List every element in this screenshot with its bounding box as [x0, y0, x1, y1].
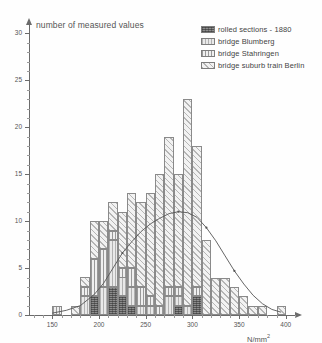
bar-segment-stahringen [192, 287, 201, 296]
bar-segment-berlin [80, 277, 89, 286]
bar-segment-berlin [183, 99, 192, 306]
histogram-bar [220, 278, 229, 316]
legend-item-rolled[interactable]: rolled sections - 1880 [201, 24, 321, 35]
histogram-bar [211, 278, 220, 316]
x-tick-major [99, 315, 100, 319]
x-tick-major [239, 315, 240, 319]
bar-segment-blumberg [108, 240, 117, 287]
x-tick-minor [118, 315, 119, 318]
bar-segment-rolled [118, 296, 127, 315]
y-tick-label: 20 [0, 123, 22, 130]
bar-segment-stahringen [164, 287, 173, 296]
x-tick-minor [90, 315, 91, 318]
histogram-bar [258, 306, 267, 315]
bar-segment-rolled [192, 296, 201, 315]
bar-segment-stahringen [108, 231, 117, 240]
histogram-bar [90, 221, 99, 315]
bar-segment-berlin [220, 278, 229, 316]
x-tick-minor [127, 315, 128, 318]
bar-segment-stahringen [90, 259, 99, 297]
bar-segment-berlin [108, 202, 117, 230]
bar-segment-stahringen [80, 287, 89, 296]
legend-item-stahringen[interactable]: bridge Stahringen [201, 48, 321, 59]
histogram-bar [146, 193, 155, 315]
x-tick-major [286, 315, 287, 319]
legend-item-label: bridge suburb train Berlin [218, 61, 304, 70]
x-tick-label: 150 [40, 321, 64, 328]
bar-segment-berlin [277, 306, 286, 315]
bar-segment-berlin [155, 174, 164, 305]
bar-segment-berlin [211, 278, 220, 316]
bar-segment-berlin [146, 193, 155, 296]
legend-swatch-icon [201, 50, 215, 57]
y-tick-label: 30 [0, 29, 22, 36]
bar-segment-stahringen [118, 268, 127, 277]
histogram-bar [230, 287, 239, 315]
histogram-bar [108, 202, 117, 315]
x-tick-minor [108, 315, 109, 318]
x-tick-label: 250 [134, 321, 158, 328]
histogram-bar [80, 278, 89, 316]
x-tick-minor [295, 315, 296, 318]
bar-segment-blumberg [164, 296, 173, 315]
x-tick-major [52, 315, 53, 319]
x-axis-unit-label: N/mm2 [247, 333, 270, 343]
bar-segment-blumberg [146, 306, 155, 315]
histogram-bar [127, 193, 136, 315]
x-tick-minor [267, 315, 268, 318]
x-tick-minor [34, 315, 35, 318]
histogram-bar [248, 306, 257, 315]
bar-segment-berlin [164, 137, 173, 287]
bar-segment-blumberg [80, 296, 89, 315]
x-tick-major [146, 315, 147, 319]
bar-segment-rolled [108, 287, 117, 315]
x-tick-minor [80, 315, 81, 318]
x-tick-minor [155, 315, 156, 318]
bar-segment-berlin [127, 193, 136, 268]
x-tick-label: 300 [180, 321, 204, 328]
legend-item-label: bridge Blumberg [218, 37, 275, 46]
x-tick-minor [277, 315, 278, 318]
histogram-bar [71, 306, 80, 315]
x-tick-label: 200 [87, 321, 111, 328]
x-tick-label: 350 [227, 321, 251, 328]
bar-segment-berlin [136, 202, 145, 287]
x-tick-minor [211, 315, 212, 318]
bar-segment-berlin [71, 306, 80, 315]
legend-item-label: rolled sections - 1880 [218, 25, 292, 34]
bar-segment-berlin [118, 212, 127, 268]
x-tick-minor [258, 315, 259, 318]
histogram-bar [174, 174, 183, 315]
legend-item-berlin[interactable]: bridge suburb train Berlin [201, 60, 321, 71]
legend-item-label: bridge Stahringen [218, 49, 279, 58]
x-tick-minor [220, 315, 221, 318]
bar-segment-berlin [202, 240, 211, 315]
histogram-bar [183, 99, 192, 315]
histogram-bar [99, 221, 108, 315]
histogram-bar [192, 146, 201, 315]
x-tick-minor [71, 315, 72, 318]
bar-segment-blumberg [127, 287, 136, 306]
x-axis-line [29, 315, 297, 316]
x-tick-label: 400 [274, 321, 298, 328]
bar-segment-rolled [174, 306, 183, 315]
histogram-bar [239, 296, 248, 315]
bar-segment-stahringen [174, 287, 183, 296]
bar-segment-rolled [127, 306, 136, 315]
bar-segment-berlin [230, 287, 239, 315]
bar-segment-blumberg [174, 296, 183, 305]
y-tick-label: 5 [0, 264, 22, 271]
y-tick-label: 10 [0, 217, 22, 224]
legend-swatch-icon [201, 26, 215, 33]
histogram-bar [118, 212, 127, 315]
bar-segment-rolled [90, 296, 99, 315]
y-tick-label: 15 [0, 170, 22, 177]
x-tick-minor [183, 315, 184, 318]
histogram-bar [277, 306, 286, 315]
legend-item-blumberg[interactable]: bridge Blumberg [201, 36, 321, 47]
chart-legend: rolled sections - 1880bridge Blumbergbri… [201, 24, 321, 72]
bar-segment-blumberg [99, 287, 108, 315]
y-tick-label: 0 [0, 311, 22, 318]
bar-segment-berlin [90, 221, 99, 259]
chart-root: number of measured values 051015202530 1… [0, 0, 322, 343]
